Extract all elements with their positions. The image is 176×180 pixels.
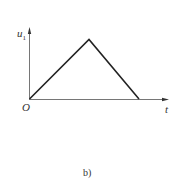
figure-caption: b) (83, 168, 91, 178)
y-axis-label-subscript: 1 (23, 34, 27, 42)
x-axis-arrow-icon (162, 98, 169, 101)
x-axis-label: t (165, 104, 168, 115)
triangle-waveform-figure: u1 O t b) (0, 0, 176, 180)
triangle-waveform-curve (30, 40, 140, 100)
waveform-plot (0, 0, 176, 180)
y-axis-label: u1 (17, 28, 26, 42)
y-axis-arrow-icon (28, 27, 31, 34)
origin-label: O (22, 102, 30, 113)
